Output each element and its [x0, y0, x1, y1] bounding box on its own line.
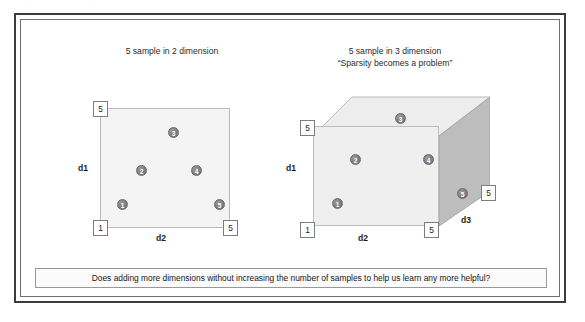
sample-dot-3d-4: 4 — [423, 154, 434, 165]
tag-2d-y-max: 5 — [93, 101, 108, 117]
sample-dot-2d-1: 1 — [117, 199, 128, 210]
sample-dot-3d-1: 1 — [332, 198, 343, 209]
panel-3d-title: 5 sample in 3 dimension “Sparsity become… — [290, 45, 500, 69]
axis-label-2d-d2: d2 — [156, 233, 166, 243]
scan-artifact-right: .. — [90, 2, 95, 8]
tag-3d-y-max: 5 — [300, 120, 315, 136]
cube-front-face — [313, 126, 439, 226]
axis-label-3d-d1: d1 — [286, 163, 296, 173]
sample-dot-3d-5: 5 — [457, 188, 468, 199]
tag-3d-z-max: 5 — [481, 185, 496, 201]
caption-box: Does adding more dimensions without incr… — [35, 268, 547, 288]
panel-2d-title: 5 sample in 2 dimension — [62, 45, 282, 57]
sample-dot-3d-3: 3 — [395, 113, 406, 124]
axis-label-3d-d2: d2 — [358, 233, 368, 243]
sample-dot-2d-2: 2 — [136, 165, 147, 176]
panel-3d-title-line1: 5 sample in 3 dimension — [290, 45, 500, 57]
diagram-2d-square — [100, 108, 230, 228]
panel-3d-title-line2: “Sparsity becomes a problem” — [290, 57, 500, 69]
axis-label-2d-d1: d1 — [78, 163, 88, 173]
tag-2d-x-max: 5 — [223, 220, 238, 236]
sample-dot-3d-2: 2 — [350, 154, 361, 165]
scan-artifact-left: .. — [30, 2, 35, 8]
tag-2d-origin: 1 — [93, 220, 108, 236]
axis-label-3d-d3: d3 — [461, 215, 471, 225]
tag-3d-x-max: 5 — [424, 222, 439, 238]
tag-3d-origin: 1 — [300, 222, 315, 238]
sample-dot-2d-4: 4 — [191, 165, 202, 176]
sample-dot-2d-3: 3 — [168, 127, 179, 138]
sample-dot-2d-5: 5 — [214, 199, 225, 210]
